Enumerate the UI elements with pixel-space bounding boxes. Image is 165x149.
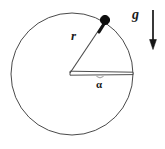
angle-label: α xyxy=(96,79,102,90)
radius-label: r xyxy=(71,29,76,42)
horizontal-radius-bar xyxy=(70,71,133,75)
physics-diagram: r α g xyxy=(0,0,165,149)
gravity-label: g xyxy=(132,8,139,22)
rod-segment xyxy=(99,24,104,32)
diagram-canvas xyxy=(0,0,165,149)
gravity-arrow-head xyxy=(150,40,157,50)
bob-mass xyxy=(100,15,109,24)
